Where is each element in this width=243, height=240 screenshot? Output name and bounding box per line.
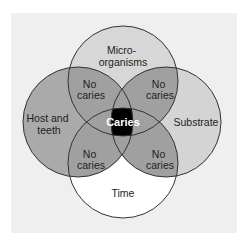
- substrate-label: Substrate: [174, 116, 219, 128]
- time-label: Time: [112, 187, 135, 199]
- caries-label: Caries: [106, 116, 140, 128]
- venn-diagram: Micro- organisms Host and teeth Substrat…: [0, 0, 243, 240]
